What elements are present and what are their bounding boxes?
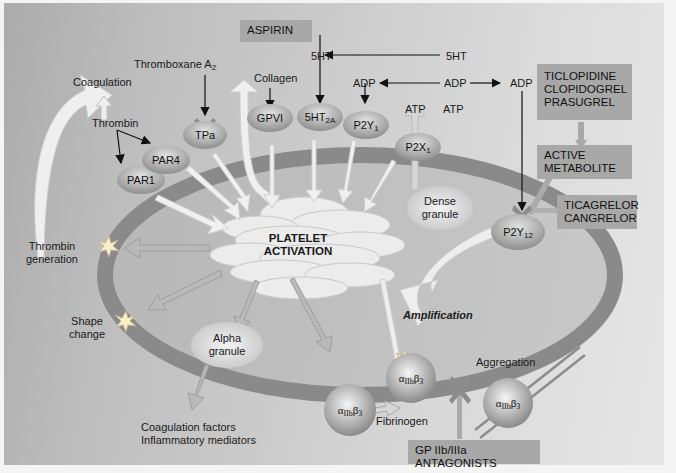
atp-label-left: ATP [405,103,426,116]
gpvi-receptor: GPVI [257,112,283,124]
clopidogrel-label: CLOPIDOGREL [544,83,625,96]
active-metabolite-box: ACTIVE METABOLITE [537,145,632,179]
tpa-receptor: TPa [195,129,215,141]
thrombin-label: Thrombin [92,117,138,130]
active-label: ACTIVE [544,149,625,162]
fibrinogen-label: Fibrinogen [376,415,428,428]
5ht-label-right: 5HT [446,50,467,63]
platelet-diagram: ASPIRIN TICLOPIDINE CLOPIDOGREL PRASUGRE… [0,0,676,473]
adp-label-left: ADP [353,77,376,90]
ticagrelor-box: TICAGRELOR CANGRELOR [557,195,637,229]
thrombin-generation-label: Thrombin generation [22,240,82,266]
cangrelor-label: CANGRELOR [564,212,630,225]
collagen-label: Collagen [254,72,297,85]
dense-granule-label: Dense granule [410,195,470,221]
5ht-label-left: 5HT [311,50,332,63]
p2x1-receptor: P2X1 [405,141,430,153]
atp-label-right: ATP [443,103,464,116]
shape-change-label: Shape change [66,315,108,341]
aspirin-box: ASPIRIN [240,20,312,42]
aggregation-label: Aggregation [476,356,535,369]
par1-receptor: PAR1 [127,174,155,186]
metabolite-label: METABOLITE [544,162,625,175]
ticagrelor-label: TICAGRELOR [564,199,630,212]
ticlopidine-label: TICLOPIDINE [544,70,625,83]
p2y12-receptor: P2Y12 [503,226,533,238]
gp-antagonists-box: GP IIb/IIIa ANTAGONISTS [408,440,540,464]
aspirin-label: ASPIRIN [247,24,293,36]
p2y1-receptor: P2Y1 [353,119,378,131]
integrin-resting: αIIbβ3 [338,404,363,416]
par4-receptor: PAR4 [152,154,180,166]
gp-antagonists-label: GP IIb/IIIa ANTAGONISTS [415,444,497,469]
adp-label-center: ADP [444,77,467,90]
adp-label-right: ADP [510,77,533,90]
5ht2a-receptor: 5HT2A [305,111,336,123]
alpha-granule-label: Alpha granule [197,332,257,358]
thienopyridine-box: TICLOPIDINE CLOPIDOGREL PRASUGREL [537,64,632,120]
prasugrel-label: PRASUGREL [544,96,625,109]
alpha-granule-products-label: Coagulation factors Inflammatory mediato… [141,421,256,447]
coagulation-label: Coagulation [73,76,132,89]
amplification-label: Amplification [403,309,473,322]
platelet-activation-label: PLATELET ACTIVATION [258,232,338,258]
integrin-activated: αIIbβ3 [399,372,424,384]
thromboxane-label: Thromboxane A2 [134,58,216,71]
integrin-aggregating: αIIbβ3 [496,397,521,409]
